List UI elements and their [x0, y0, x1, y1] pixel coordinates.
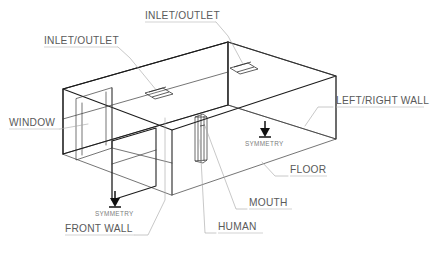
vent-right-outer [230, 63, 258, 74]
leader-left-right-wall [305, 107, 333, 126]
leader-front-wall [135, 118, 165, 235]
cad-diagram: INLET/OUTLET INLET/OUTLET WINDOW LEFT/RI… [0, 0, 433, 256]
ceiling-vent-right [230, 62, 258, 74]
front-wall-panel [112, 128, 156, 200]
leader-human [200, 140, 216, 233]
vent-right-inner [234, 62, 254, 72]
label-window: WINDOW [9, 117, 55, 128]
label-mouth: MOUTH [249, 197, 288, 208]
leader-mouth [205, 126, 247, 209]
symmetry-arrow-right-head [260, 128, 270, 137]
label-floor: FLOOR [290, 164, 326, 175]
window-panel [76, 88, 112, 160]
label-left-right-wall: LEFT/RIGHT WALL [336, 95, 429, 106]
label-front-wall: FRONT WALL [65, 223, 133, 234]
label-inlet-outlet-top: INLET/OUTLET [145, 10, 220, 21]
interior-partition-edge [63, 72, 228, 200]
floor-face-edges [63, 105, 336, 195]
label-inlet-outlet-left: INLET/OUTLET [44, 35, 119, 46]
leader-floor [262, 162, 288, 176]
leader-window [60, 124, 88, 129]
isometric-room-drawing: INLET/OUTLET INLET/OUTLET WINDOW LEFT/RI… [0, 0, 433, 256]
label-symmetry-left: SYMMETRY [95, 210, 134, 217]
window-inner-frame [82, 92, 106, 155]
wall-panels [63, 42, 336, 154]
right-end-wall-face [228, 42, 336, 139]
symmetry-arrow-left-head [110, 198, 120, 207]
front-wall-outline [112, 128, 156, 200]
vent-left-outer [145, 88, 173, 99]
symmetry-arrow-right [259, 121, 271, 137]
leader-inlet-outlet-left [118, 47, 157, 91]
label-underlines [9, 22, 424, 235]
label-human: HUMAN [218, 221, 257, 232]
symmetry-arrow-left [109, 191, 121, 207]
leader-lines [60, 22, 333, 235]
window-outline [76, 88, 112, 160]
label-symmetry-right: SYMMETRY [245, 140, 284, 147]
